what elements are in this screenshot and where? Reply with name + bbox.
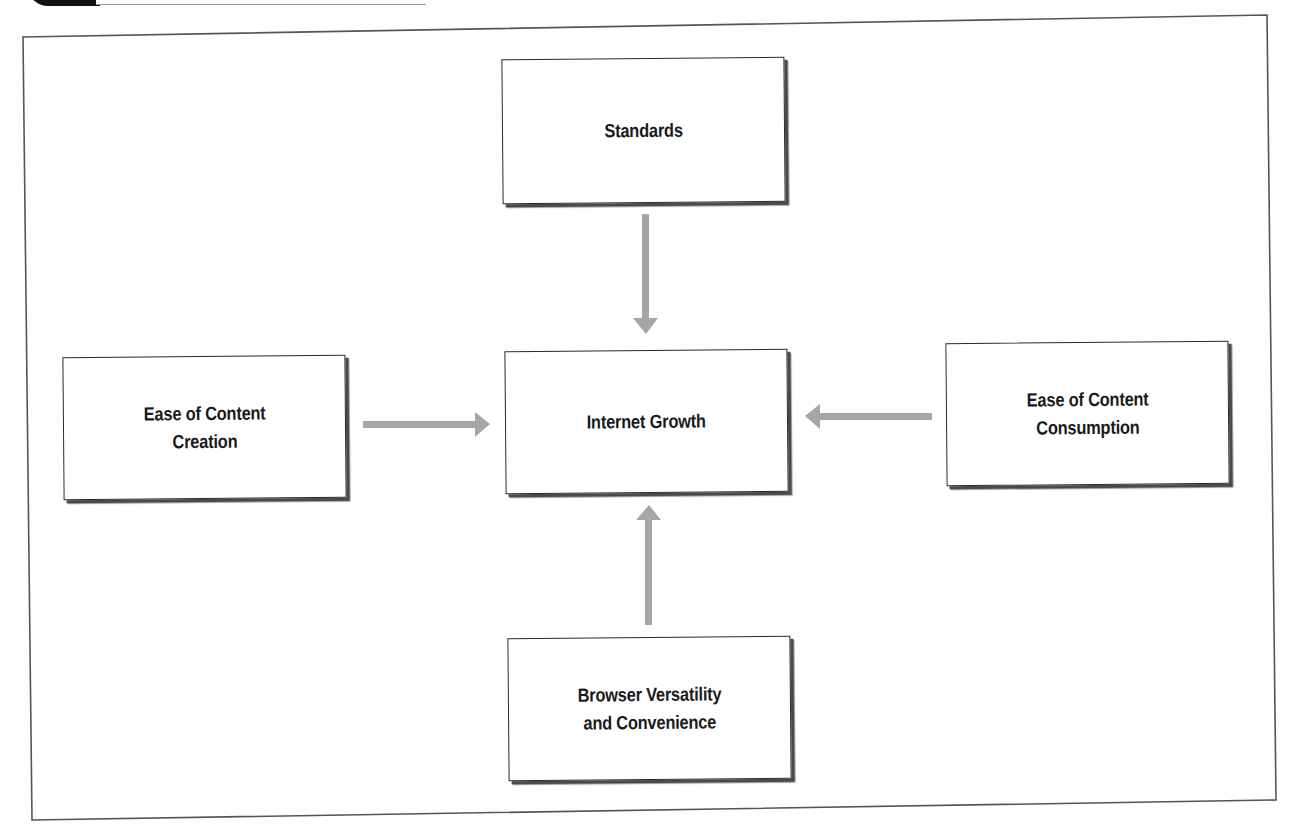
node-label-line: Standards [604, 116, 683, 145]
node-label-line: and Convenience [578, 708, 722, 737]
arrow-up-icon [636, 505, 661, 625]
node-label: Standards [604, 116, 683, 145]
node-label: Ease of Content Creation [143, 399, 265, 456]
node-label: Internet Growth [587, 407, 706, 436]
node-browser-versatility: Browser Versatility and Convenience [507, 636, 791, 781]
node-label: Browser Versatility and Convenience [577, 680, 721, 737]
node-content-creation: Ease of Content Creation [62, 355, 346, 500]
node-label-line: Creation [144, 427, 266, 456]
node-label-line: Consumption [1027, 413, 1149, 442]
node-internet-growth: Internet Growth [504, 349, 788, 494]
arrow-down-icon [633, 214, 658, 334]
node-label-line: Browser Versatility [577, 680, 721, 709]
node-label-line: Internet Growth [587, 407, 706, 436]
arrow-left-icon [805, 404, 932, 429]
node-label-line: Ease of Content [143, 399, 265, 428]
node-standards: Standards [501, 57, 785, 204]
arrow-right-icon [363, 412, 490, 437]
node-content-consumption: Ease of Content Consumption [945, 341, 1229, 486]
node-label: Ease of Content Consumption [1026, 385, 1148, 442]
node-label-line: Ease of Content [1026, 385, 1148, 414]
